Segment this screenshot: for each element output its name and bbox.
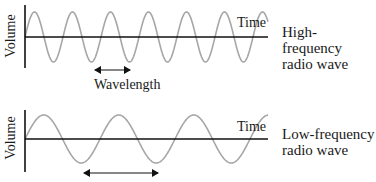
radio-wave-frequency-diagram: Volume Time Wavelength High-frequency ra… (0, 0, 376, 182)
high-caption-line1: High-frequency (282, 24, 376, 56)
low-caption-line1: Low-frequency (282, 126, 374, 142)
low-volume-label: Volume (3, 113, 19, 163)
high-frequency-caption: High-frequency radio wave (282, 24, 376, 72)
low-frequency-panel (25, 110, 268, 173)
low-time-label: Time (237, 119, 266, 135)
high-caption-line2: radio wave (282, 56, 376, 72)
high-time-label: Time (237, 15, 266, 31)
low-caption-line2: radio wave (282, 142, 374, 158)
wavelength-label: Wavelength (94, 77, 161, 93)
low-frequency-caption: Low-frequency radio wave (282, 126, 374, 158)
high-volume-label: Volume (3, 11, 19, 61)
high-frequency-panel (25, 5, 268, 70)
